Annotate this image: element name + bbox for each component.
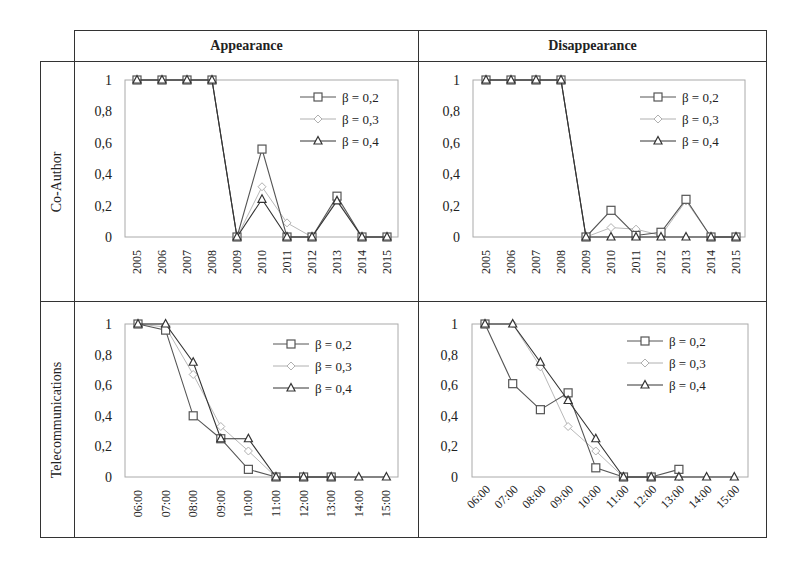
y-tick-label: 1 bbox=[451, 317, 458, 332]
y-tick-label: 0,8 bbox=[441, 348, 459, 363]
x-tick-label: 07:00 bbox=[492, 482, 521, 511]
legend-label: β = 0,4 bbox=[669, 378, 706, 393]
series-beta-0-3 bbox=[481, 320, 683, 481]
x-tick-label: 10:00 bbox=[575, 482, 604, 511]
y-tick-label: 0,6 bbox=[441, 378, 459, 393]
x-tick-label: 11:00 bbox=[603, 482, 632, 511]
diamond-legend-icon bbox=[641, 359, 649, 367]
series-beta-0-2 bbox=[481, 320, 683, 481]
square-marker-icon bbox=[592, 464, 600, 472]
x-tick-label: 14:00 bbox=[685, 482, 714, 511]
triangle-marker-icon bbox=[730, 473, 738, 481]
legend-label: β = 0,2 bbox=[669, 334, 706, 349]
x-tick-label: 12:00 bbox=[630, 482, 659, 511]
square-marker-icon bbox=[509, 380, 517, 388]
plot-area bbox=[472, 324, 748, 477]
legend-label: β = 0,3 bbox=[669, 356, 706, 371]
x-tick-label: 15:00 bbox=[713, 482, 742, 511]
x-tick-label: 09:00 bbox=[547, 482, 576, 511]
chart-telecom-disappearance: 00,20,40,60,8106:0007:0008:0009:0010:001… bbox=[0, 0, 805, 564]
square-legend-icon bbox=[641, 337, 649, 345]
x-tick-label: 06:00 bbox=[464, 482, 493, 511]
x-tick-label: 13:00 bbox=[658, 482, 687, 511]
triangle-legend-icon bbox=[641, 381, 649, 389]
x-tick-label: 08:00 bbox=[519, 482, 548, 511]
square-marker-icon bbox=[536, 406, 544, 414]
triangle-marker-icon bbox=[703, 473, 711, 481]
y-tick-label: 0,2 bbox=[441, 439, 459, 454]
y-tick-label: 0 bbox=[451, 470, 458, 485]
y-tick-label: 0,4 bbox=[441, 409, 459, 424]
legend: β = 0,2β = 0,3β = 0,4 bbox=[627, 334, 706, 393]
